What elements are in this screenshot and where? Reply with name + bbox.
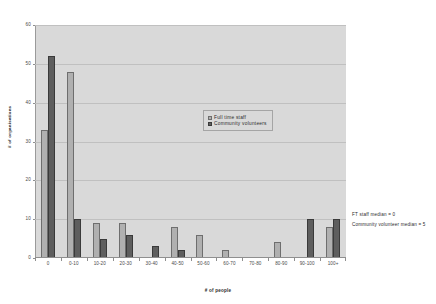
y-axis-tick-label: 30 bbox=[25, 139, 31, 144]
bar bbox=[171, 227, 178, 258]
bar-group bbox=[320, 25, 346, 258]
bar bbox=[48, 56, 55, 258]
x-axis-tick-label: 0 bbox=[35, 261, 61, 266]
x-axis-tick-label: 0-10 bbox=[61, 261, 87, 266]
bar-group bbox=[165, 25, 191, 258]
y-axis-tick-label: 50 bbox=[25, 62, 31, 67]
legend-swatch-icon bbox=[208, 116, 212, 120]
y-axis-tick-label: 10 bbox=[25, 217, 31, 222]
y-axis-tick-label: 0 bbox=[28, 256, 31, 261]
bar bbox=[67, 72, 74, 258]
bar-group bbox=[87, 25, 113, 258]
bar bbox=[74, 219, 81, 258]
x-axis-tick-label: 30-40 bbox=[139, 261, 165, 266]
chart-legend: Full time staff Community volunteers bbox=[203, 110, 273, 131]
bar bbox=[274, 242, 281, 258]
bar-group bbox=[35, 25, 61, 258]
y-axis-tick-label: 20 bbox=[25, 178, 31, 183]
x-axis-tick-label: 100+ bbox=[320, 261, 346, 266]
x-axis-tick-label: 90-100 bbox=[294, 261, 320, 266]
median-annotations: FT staff median = 0 Community volunteer … bbox=[352, 212, 434, 232]
bar-group bbox=[294, 25, 320, 258]
annotation-ft-staff-median: FT staff median = 0 bbox=[352, 212, 434, 218]
bar bbox=[196, 235, 203, 258]
bar bbox=[326, 227, 333, 258]
y-axis-tick-label: 60 bbox=[25, 23, 31, 28]
bar-group bbox=[268, 25, 294, 258]
x-axis-tick-label: 10-20 bbox=[87, 261, 113, 266]
x-axis-tick-label: 70-80 bbox=[242, 261, 268, 266]
bar bbox=[307, 219, 314, 258]
y-axis-title: # of organisations bbox=[8, 106, 12, 148]
bar-group bbox=[242, 25, 268, 258]
bar bbox=[333, 219, 340, 258]
legend-item-community-volunteers: Community volunteers bbox=[208, 121, 267, 126]
bar-group bbox=[191, 25, 217, 258]
legend-label: Community volunteers bbox=[214, 121, 267, 126]
bar-series-container bbox=[35, 25, 346, 258]
legend-label: Full time staff bbox=[214, 115, 246, 120]
x-axis-tick-label: 20-30 bbox=[113, 261, 139, 266]
bar bbox=[100, 239, 107, 258]
x-axis-tick-label: 40-50 bbox=[165, 261, 191, 266]
y-axis-tick-label: 40 bbox=[25, 100, 31, 105]
plot-area: 0102030405060 bbox=[35, 25, 346, 258]
x-axis-tick-labels: 00-1010-2020-3030-4040-5050-6060-7070-80… bbox=[35, 261, 346, 266]
legend-swatch-icon bbox=[208, 122, 212, 126]
bar-group bbox=[216, 25, 242, 258]
bar-chart-figure: # of organisations 0102030405060 00-1010… bbox=[0, 0, 436, 304]
bar-group bbox=[61, 25, 87, 258]
bar bbox=[119, 223, 126, 258]
x-axis-title: # of people bbox=[0, 288, 436, 293]
legend-item-full-time-staff: Full time staff bbox=[208, 115, 267, 120]
x-axis-tick-label: 60-70 bbox=[216, 261, 242, 266]
annotation-community-volunteer-median: Community volunteer median = 5 bbox=[352, 222, 434, 228]
x-axis-tick-label: 80-90 bbox=[268, 261, 294, 266]
bar-group bbox=[113, 25, 139, 258]
bar bbox=[93, 223, 100, 258]
bar bbox=[41, 130, 48, 258]
bar-group bbox=[139, 25, 165, 258]
bar bbox=[126, 235, 133, 258]
x-axis-tick-label: 50-60 bbox=[191, 261, 217, 266]
